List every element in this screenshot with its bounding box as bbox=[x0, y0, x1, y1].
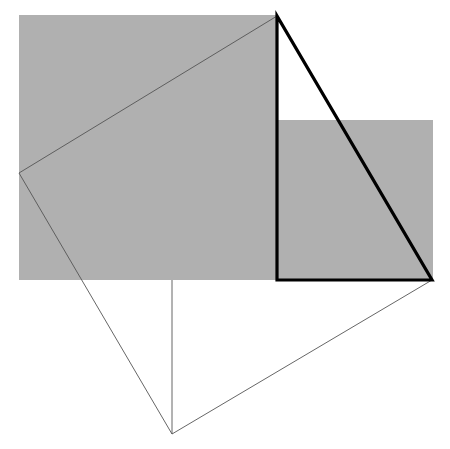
lower-right-shaded-rectangle bbox=[277, 120, 433, 280]
upper-left-shaded-rectangle bbox=[19, 15, 277, 280]
geometry-figure bbox=[0, 0, 450, 449]
figure-canvas bbox=[0, 0, 450, 449]
